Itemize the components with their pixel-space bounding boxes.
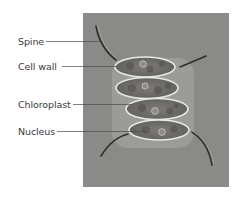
label-chloroplast: Chloroplast [18,99,71,110]
label-nucleus: Nucleus [18,126,55,137]
cell-1 [115,57,175,77]
nucleus-labeled [159,129,166,136]
label-cell-wall: Cell wall [18,61,57,72]
spine-bottom-right [192,132,212,165]
label-spine: Spine [18,36,44,47]
